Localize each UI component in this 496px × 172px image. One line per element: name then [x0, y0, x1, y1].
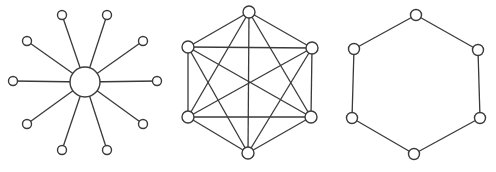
star-node: [9, 77, 18, 86]
mesh-link: [249, 12, 312, 48]
mesh-link: [188, 47, 312, 48]
mesh-node: [305, 111, 317, 123]
star-node: [23, 120, 32, 129]
ring-link: [478, 50, 480, 118]
star-node: [103, 11, 112, 20]
star-node: [139, 120, 148, 129]
mesh-node: [306, 42, 318, 54]
star-hub: [70, 67, 100, 97]
mesh-node: [243, 6, 255, 18]
ring-link: [352, 118, 414, 154]
mesh-link: [248, 117, 311, 153]
ring-node: [347, 113, 358, 124]
ring-link: [416, 15, 478, 50]
ring-node: [473, 45, 484, 56]
mesh-link: [188, 47, 248, 153]
ring-node: [349, 44, 360, 55]
ring-link: [414, 118, 480, 154]
star-node: [139, 37, 148, 46]
star-node: [23, 37, 32, 46]
mesh-topology: [182, 6, 318, 159]
star-node: [153, 77, 162, 86]
ring-link: [354, 15, 416, 49]
star-node: [58, 146, 67, 155]
mesh-link: [311, 48, 312, 117]
mesh-link: [188, 12, 249, 47]
mesh-node: [182, 41, 194, 53]
mesh-node: [182, 111, 194, 123]
mesh-link: [188, 117, 248, 153]
ring-node: [411, 10, 422, 21]
star-topology: [9, 11, 162, 155]
star-node: [103, 146, 112, 155]
ring-link: [352, 49, 354, 118]
star-node: [58, 11, 67, 20]
network-topology-diagrams: [0, 0, 496, 172]
ring-node: [475, 113, 486, 124]
mesh-node: [242, 147, 254, 159]
ring-node: [409, 149, 420, 160]
ring-topology: [347, 10, 486, 160]
